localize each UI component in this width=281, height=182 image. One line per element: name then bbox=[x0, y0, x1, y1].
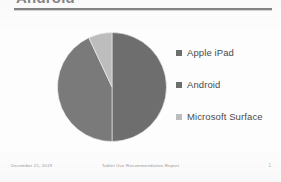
legend-item-label: Apple iPad bbox=[187, 47, 234, 59]
pie-slice-group bbox=[58, 33, 167, 142]
chart-legend: Apple iPad Android Microsoft Surface bbox=[176, 47, 276, 143]
page-title: Android bbox=[16, 0, 256, 7]
title-divider-shadow bbox=[14, 10, 272, 11]
chart-area: Apple iPad Android Microsoft Surface bbox=[0, 14, 281, 160]
square-marker-icon bbox=[176, 114, 182, 120]
legend-item-label: Android bbox=[187, 79, 220, 91]
pie-chart bbox=[57, 32, 167, 142]
legend-item-label: Microsoft Surface bbox=[187, 111, 263, 123]
legend-item: Microsoft Surface bbox=[176, 111, 276, 123]
pie-slice bbox=[112, 33, 166, 142]
footer-report-title: Tablet Use Recommendation Report bbox=[0, 163, 281, 168]
legend-item: Apple iPad bbox=[176, 47, 276, 59]
legend-item: Android bbox=[176, 79, 276, 91]
square-marker-icon bbox=[176, 82, 182, 88]
slide-canvas: Android Apple iPad Android Microsoft Sur… bbox=[0, 0, 281, 182]
footer-page-number: 1 bbox=[268, 163, 271, 168]
slide-footer: December 21, 2019 Tablet Use Recommendat… bbox=[0, 163, 281, 177]
pie-chart-svg bbox=[57, 32, 167, 142]
square-marker-icon bbox=[176, 50, 182, 56]
